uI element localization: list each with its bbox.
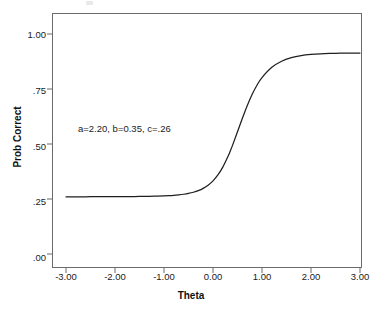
scan-artifact (86, 1, 93, 5)
x-tick-label-3: 3.00 (338, 272, 382, 282)
x-axis-title: Theta (0, 291, 382, 301)
plot-frame (52, 13, 362, 268)
parameter-annotation: a=2.20, b=0.35, c=.26 (78, 124, 171, 134)
y-tick-label-0-25: .25 (12, 197, 46, 207)
x-tick-label-2: 2.00 (289, 272, 333, 282)
y-tick-label-1-00: 1.00 (12, 30, 46, 40)
x-tick-label-neg2: -2.00 (93, 272, 137, 282)
icc-figure: 1.00 .75 .50 .25 .00 -3.00 -2.00 -1.00 0… (0, 0, 382, 316)
y-tick-label-0-00: .00 (12, 253, 46, 263)
x-tick-label-neg1: -1.00 (142, 272, 186, 282)
x-tick-label-1: 1.00 (240, 272, 284, 282)
y-axis-title: Prob Correct (13, 87, 23, 187)
x-tick-label-neg3: -3.00 (44, 272, 88, 282)
x-tick-label-0: 0.00 (191, 272, 235, 282)
